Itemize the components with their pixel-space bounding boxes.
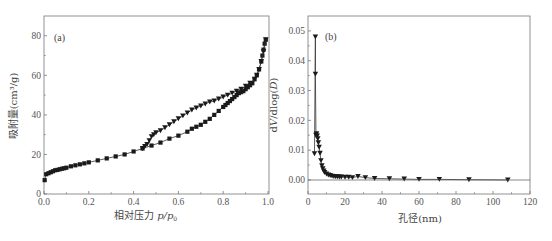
data-point-square <box>114 154 118 158</box>
data-point-square <box>82 161 86 165</box>
x-tick-label: 0.8 <box>217 197 229 207</box>
y-tick-label: 60 <box>32 71 42 81</box>
data-point-square <box>123 152 127 156</box>
x-tick-label: 1.0 <box>262 197 274 207</box>
x-tick-label: 0 <box>306 197 311 207</box>
series-line <box>45 40 266 180</box>
data-point-square <box>203 120 207 124</box>
x-tick-label: 40 <box>377 197 387 207</box>
y-tick-label: 0 <box>36 189 41 199</box>
data-point-triangle <box>318 158 324 163</box>
y-tick-label: 80 <box>32 31 42 41</box>
data-point-square <box>87 160 91 164</box>
data-point-square <box>190 127 194 131</box>
data-point-triangle <box>225 93 231 98</box>
y-tick-label: 0.03 <box>288 86 305 96</box>
data-point-square <box>78 162 82 166</box>
data-point-triangle <box>312 151 318 156</box>
data-point-square <box>73 163 77 167</box>
data-point-triangle <box>158 128 164 133</box>
data-point-square <box>132 149 136 153</box>
series-line <box>314 37 507 180</box>
x-tick-label: 80 <box>451 197 461 207</box>
data-point-triangle <box>198 104 204 109</box>
chart-a-axes: 0.00.20.40.60.81.0020406080 <box>32 31 275 207</box>
y-tick-label: 20 <box>32 150 42 160</box>
x-tick-label: 0.2 <box>83 197 95 207</box>
data-point-triangle <box>220 95 226 100</box>
data-point-triangle <box>229 91 235 96</box>
y-tick-label: 40 <box>32 110 42 120</box>
chart-b-frame <box>308 16 530 194</box>
figure: 0.00.20.40.60.81.0020406080 (a) 相对压力 p/p… <box>0 0 552 241</box>
data-point-triangle <box>194 105 200 110</box>
data-point-triangle <box>316 140 322 145</box>
data-point-square <box>69 164 73 168</box>
chart-b-plot-area <box>308 34 530 182</box>
chart-b-panel-label: (b) <box>325 31 337 43</box>
data-point-square <box>176 134 180 138</box>
chart-a-frame <box>44 16 269 194</box>
data-point-square <box>43 178 47 182</box>
chart-a-isotherm: 0.00.20.40.60.81.0020406080 (a) 相对压力 p/p… <box>7 16 274 222</box>
y-tick-label: 0.05 <box>288 26 305 36</box>
data-point-triangle <box>313 34 319 39</box>
data-point-square <box>217 109 221 113</box>
data-point-triangle <box>211 99 217 104</box>
chart-a-x-axis-label: 相对压力 p/p0 <box>114 209 177 222</box>
x-tick-label: 0.4 <box>128 197 140 207</box>
data-point-triangle <box>313 72 319 77</box>
data-point-square <box>158 140 162 144</box>
y-tick-label: 0.01 <box>288 145 305 155</box>
data-point-square <box>212 113 216 117</box>
chart-b-x-axis-label: 孔径(nm) <box>398 212 442 224</box>
y-tick-label: 0.02 <box>288 116 305 126</box>
data-point-triangle <box>316 145 322 150</box>
data-point-triangle <box>317 151 323 156</box>
data-point-square <box>149 143 153 147</box>
data-point-square <box>167 137 171 141</box>
x-tick-label: 120 <box>523 197 538 207</box>
series-line <box>143 40 266 149</box>
chart-b-y-axis-label: dV/dlog(D) <box>268 77 279 132</box>
y-tick-label: 0.00 <box>288 175 305 185</box>
chart-a-y-axis-label: 吸附量(cm³/g) <box>7 73 19 140</box>
x-tick-label: 100 <box>486 197 501 207</box>
data-point-square <box>64 166 68 170</box>
y-tick-label: 0.04 <box>288 56 305 66</box>
chart-b-pore-distribution: 0204060801001200.000.010.020.030.040.05 … <box>268 16 537 224</box>
x-tick-label: 0.6 <box>172 197 184 207</box>
data-point-square <box>185 130 189 134</box>
data-point-square <box>199 123 203 127</box>
data-point-square <box>194 125 198 129</box>
data-point-triangle <box>207 100 213 105</box>
chart-a-panel-label: (a) <box>54 32 65 44</box>
data-point-triangle <box>216 97 222 102</box>
data-point-square <box>208 117 212 121</box>
chart-a-plot-area <box>43 37 269 182</box>
x-tick-label: 60 <box>414 197 424 207</box>
data-point-triangle <box>203 102 209 107</box>
data-point-square <box>105 156 109 160</box>
data-point-square <box>96 158 100 162</box>
x-tick-label: 20 <box>340 197 350 207</box>
